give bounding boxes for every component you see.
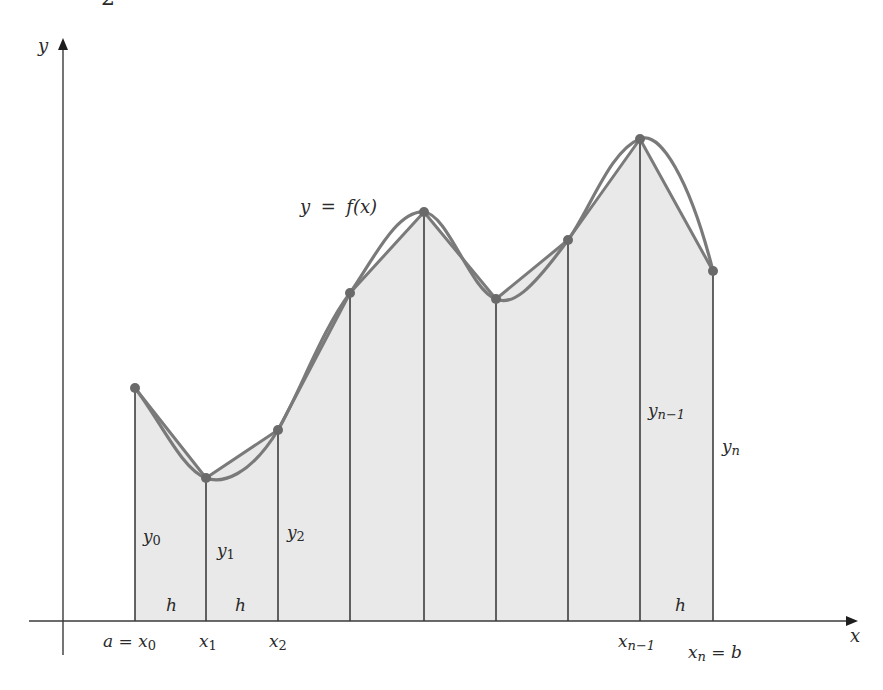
width-label-h-1: h: [166, 595, 177, 615]
abscissa-label-x1: x1: [199, 631, 217, 653]
width-label-h-2: h: [235, 595, 246, 615]
trapezoidal-rule-figure: 2 x y y = f(x): [0, 0, 883, 690]
abscissa-label-xn-1: xn−1: [618, 631, 655, 653]
abscissa-label-a-x0: a = x0: [103, 631, 156, 653]
x-axis-label: x: [850, 625, 860, 646]
abscissa-label-xn-b: xn = b: [688, 642, 742, 664]
ordinate-label-yn: yn: [721, 436, 740, 458]
curve-label: y = f(x): [299, 196, 377, 217]
y-axis-arrow-icon: [58, 38, 68, 50]
abscissa-label-x2: x2: [269, 631, 287, 653]
corner-fragment: 2: [101, 0, 115, 10]
width-label-h-n: h: [675, 595, 686, 615]
y-axis-label: y: [37, 35, 49, 56]
